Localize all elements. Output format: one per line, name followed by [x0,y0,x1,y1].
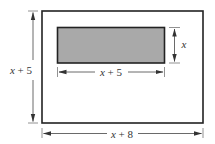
inner-shaded-rectangle [58,28,165,64]
outer-height-label: x + 5 [9,64,33,76]
inner-height-dimension [169,28,180,64]
inner-height-label: x [181,38,187,50]
outer-width-label: x + 8 [110,128,134,140]
inner-width-label: x + 5 [99,66,123,78]
diagram-canvas: x + 5 x + 8 x + 5 x [0,0,215,144]
